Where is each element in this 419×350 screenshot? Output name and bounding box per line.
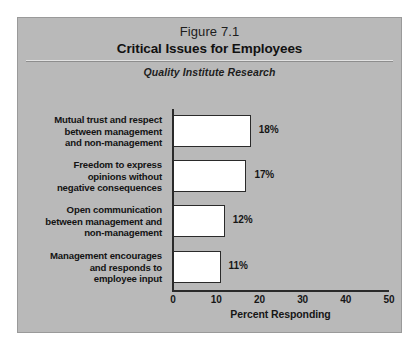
x-tick-label: 30 xyxy=(297,294,308,305)
figure-subtitle: Quality Institute Research xyxy=(18,62,401,79)
bar-row: Management encourages and responds to em… xyxy=(18,245,403,290)
figure-number: Figure 7.1 xyxy=(18,18,401,40)
x-tick-label: 0 xyxy=(170,294,175,305)
bar-value-label: 11% xyxy=(229,260,248,271)
category-label-line: negative consequences xyxy=(18,182,162,193)
category-label-line: Freedom to express xyxy=(18,159,162,170)
category-label-line: employee input xyxy=(18,273,162,284)
chart-plot-area: Mutual trust and respect between managem… xyxy=(18,104,403,334)
bar-row: Freedom to express opinions without nega… xyxy=(18,154,403,199)
figure-panel: Figure 7.1 Critical Issues for Employees… xyxy=(17,17,402,333)
bar-track: 11% xyxy=(168,245,403,290)
bar xyxy=(173,251,221,283)
category-label: Management encourages and responds to em… xyxy=(18,250,168,284)
x-tick-label: 10 xyxy=(211,294,222,305)
category-label-line: between management and xyxy=(18,216,162,227)
bar-value-label: 17% xyxy=(254,169,274,180)
bar-row: Mutual trust and respect between managem… xyxy=(18,109,403,154)
page-title: Critical Issues for Employees xyxy=(18,40,401,57)
title-block: Figure 7.1 Critical Issues for Employees… xyxy=(18,18,401,79)
category-label-line: non-management xyxy=(18,227,162,238)
bar-track: 12% xyxy=(168,199,403,244)
category-label-line: opinions without xyxy=(18,171,162,182)
bar xyxy=(173,205,225,237)
category-label-line: Mutual trust and respect xyxy=(18,114,162,125)
category-label-line: Open communication xyxy=(18,204,162,215)
category-label: Freedom to express opinions without nega… xyxy=(18,159,168,193)
x-axis-title: Percent Responding xyxy=(172,308,389,320)
bar-value-label: 18% xyxy=(259,124,279,135)
bar-track: 18% xyxy=(168,109,403,154)
x-axis-line xyxy=(172,290,389,292)
bar-row: Open communication between management an… xyxy=(18,199,403,244)
category-label: Open communication between management an… xyxy=(18,204,168,238)
category-label: Mutual trust and respect between managem… xyxy=(18,114,168,148)
bar xyxy=(173,115,251,147)
x-tick-label: 20 xyxy=(254,294,265,305)
bar xyxy=(173,160,246,192)
category-label-line: and responds to xyxy=(18,262,162,273)
x-tick-label: 40 xyxy=(340,294,351,305)
x-tick-label: 50 xyxy=(384,294,395,305)
bar-track: 17% xyxy=(168,154,403,199)
bar-value-label: 12% xyxy=(233,214,253,225)
category-label-line: between management xyxy=(18,126,162,137)
category-label-line: and non-management xyxy=(18,137,162,148)
category-label-line: Management encourages xyxy=(18,250,162,261)
